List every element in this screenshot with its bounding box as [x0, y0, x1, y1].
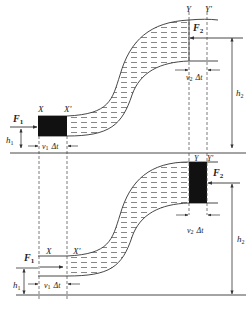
bottom-fluid-block-y — [189, 162, 207, 203]
top-label-f2: F2 — [192, 22, 204, 35]
top-label-h1: h1 — [6, 135, 14, 146]
top-label-x: X — [37, 104, 44, 114]
top-label-f1: F1 — [12, 113, 24, 126]
bernoulli-diagram: X X' Y Y' F1 h1 v1Δt F2 v2Δt h2 — [0, 0, 252, 311]
top-label-v2dt: v2Δt — [186, 73, 203, 82]
bottom-label-xprime: X' — [72, 246, 81, 256]
bottom-label-v2dt: v2Δt — [187, 226, 204, 235]
bottom-label-f1: F1 — [23, 252, 35, 265]
bottom-label-v1dt: v1Δt — [44, 281, 61, 290]
top-label-h2: h2 — [236, 88, 244, 99]
bottom-label-yprime: Y' — [207, 154, 213, 163]
bottom-label-x: X — [45, 246, 52, 256]
bottom-label-f2: F2 — [212, 167, 224, 180]
bottom-label-h2: h2 — [237, 234, 245, 245]
top-label-yprime: Y' — [205, 4, 213, 14]
top-label-y: Y — [186, 4, 192, 14]
bottom-panel: Y Y' X X' F1 h1 v1Δt F2 v2Δt h2 — [13, 153, 245, 294]
bottom-label-h1: h1 — [13, 280, 21, 291]
top-fluid-block-x — [38, 116, 67, 136]
top-fluid-hatch — [60, 15, 200, 140]
top-label-v1dt: v1Δt — [42, 142, 59, 151]
top-label-xprime: X' — [63, 104, 72, 114]
bottom-fluid-hatch — [60, 155, 200, 280]
